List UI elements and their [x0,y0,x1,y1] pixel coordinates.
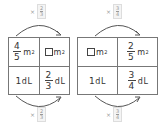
numerator: 2 [127,42,135,52]
left-proportion-table: 4 5 m2 m2 1 dL 2 3 dL [8,37,70,95]
top-arrow-icon [93,22,143,38]
denominator: 5 [128,52,134,62]
exponent: 2 [62,49,66,55]
denominator: 3 [40,12,43,17]
denominator: 4 [116,115,119,120]
denominator: 5 [14,52,20,62]
right-top-multiplier: × 3 4 [106,4,122,19]
unit: m [23,48,31,57]
numerator: 3 [128,71,136,81]
denominator: 3 [40,115,43,120]
denominator: 3 [46,81,52,91]
cell-top-left: 4 5 m2 [9,38,39,66]
multiplier-fraction: 2 3 [37,107,46,122]
multiplier-fraction: 3 4 [113,107,122,122]
times-symbol: × [30,8,35,15]
cell-bottom-right: 2 3 dL [40,67,70,95]
multiplier-fraction: 2 3 [37,4,46,19]
left-top-multiplier: × 2 3 [30,4,46,19]
cell-bottom-right: 3 4 dL [118,67,158,95]
times-symbol: × [106,8,111,15]
unit: m [137,48,145,57]
exponent: 2 [31,49,35,55]
right-bottom-multiplier: × 3 4 [106,107,122,122]
cell-bottom-left: 1 dL [78,67,117,95]
unit: m [96,48,104,57]
cell-top-left: m2 [78,38,117,66]
denominator: 4 [116,12,119,17]
cell-top-right: m2 [40,38,70,66]
fraction: 2 3 [45,71,53,91]
multiplier-fraction: 3 4 [113,4,122,19]
exponent: 2 [104,49,108,55]
right-proportion-table: m2 2 5 m2 1 dL 3 4 dL [77,37,158,95]
numerator: 4 [13,42,21,52]
cell-top-right: 2 5 m2 [118,38,158,66]
fraction: 3 4 [128,71,136,91]
exponent: 2 [145,49,149,55]
left-bottom-multiplier: × 2 3 [30,107,46,122]
unit: dL [138,77,149,86]
denominator: 4 [129,81,135,91]
fraction: 4 5 [13,42,21,62]
unit: dL [22,77,33,86]
times-symbol: × [30,111,35,118]
unit: m [54,48,62,57]
cell-bottom-left: 1 dL [9,67,39,95]
top-arrow-icon [14,22,64,38]
unit: dL [55,77,66,86]
numerator: 2 [45,71,53,81]
unknown-box-icon [45,48,53,56]
unknown-box-icon [87,48,95,56]
fraction: 2 5 [127,42,135,62]
times-symbol: × [106,111,111,118]
unit: dL [95,77,106,86]
